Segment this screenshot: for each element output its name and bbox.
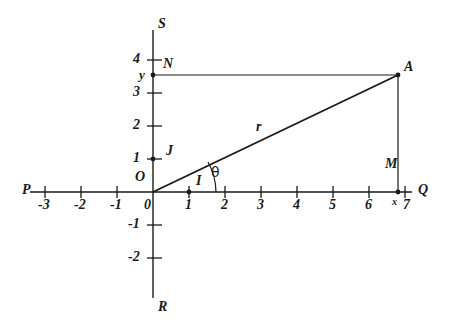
y-tick-label-1: 1 — [133, 151, 140, 165]
x-tick-label-6: 6 — [365, 198, 372, 212]
segment-label-M: M — [385, 157, 397, 171]
axis-label-S: S — [158, 17, 166, 31]
point-label-A: A — [404, 60, 413, 74]
segment-radius-OA — [153, 75, 398, 192]
point-label-N: N — [163, 57, 173, 71]
x-tick-label--3: -3 — [38, 198, 50, 212]
axis-label-P: P — [22, 183, 31, 197]
y-tick-label--1: -1 — [128, 217, 140, 231]
point-dot-x-foot — [396, 190, 401, 195]
x-tick-label-1: 1 — [185, 198, 192, 212]
x-tick-label-2: 2 — [221, 198, 228, 212]
x-tick-label-3: 3 — [257, 198, 264, 212]
x-tick-label--1: -1 — [110, 198, 122, 212]
x-tick-label-7: 7 — [403, 198, 410, 212]
y-tick-label-4: 4 — [133, 52, 140, 66]
point-dot-N — [151, 73, 156, 78]
point-dot-I — [187, 190, 192, 195]
point-label-I: I — [196, 174, 201, 188]
y-variable-label: y — [139, 68, 145, 81]
x-tick-label-5: 5 — [329, 198, 336, 212]
point-dot-J — [151, 157, 156, 162]
y-tick-label--2: -2 — [128, 250, 140, 264]
x-tick-label--2: -2 — [74, 198, 86, 212]
coordinate-diagram: P Q S R O 0 -3 -2 -1 1 2 3 4 5 6 7 4 3 2… — [0, 0, 450, 325]
x-variable-label: x — [392, 197, 397, 207]
x-tick-label-4: 4 — [293, 198, 300, 212]
segment-label-r: r — [256, 120, 261, 134]
axis-label-R: R — [158, 300, 167, 314]
diagram-canvas — [0, 0, 450, 325]
y-tick-label-3: 3 — [133, 85, 140, 99]
x-tick-label-0: 0 — [144, 198, 151, 212]
angle-label-theta: θ — [211, 165, 220, 179]
origin-label-O: O — [135, 170, 145, 184]
y-tick-label-2: 2 — [133, 118, 140, 132]
point-label-J: J — [166, 144, 173, 158]
axis-label-Q: Q — [418, 183, 428, 197]
point-dot-A — [396, 73, 401, 78]
